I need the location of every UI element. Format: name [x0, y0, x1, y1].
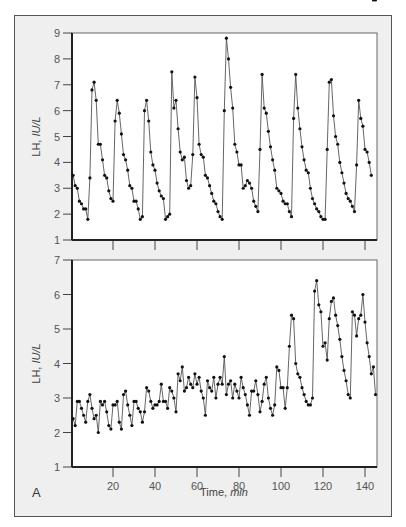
data-point: [296, 106, 299, 109]
data-point: [231, 106, 234, 109]
y-tick-label: 2: [54, 208, 60, 220]
data-point: [166, 407, 169, 410]
data-point: [116, 99, 119, 102]
data-point: [345, 379, 348, 382]
data-point: [271, 414, 274, 417]
data-point: [206, 379, 209, 382]
data-point: [120, 132, 123, 135]
data-point: [258, 410, 261, 413]
data-point: [99, 143, 102, 146]
data-point: [311, 396, 314, 399]
data-point: [221, 383, 224, 386]
data-point: [189, 383, 192, 386]
data-point: [292, 317, 295, 320]
data-point: [179, 150, 182, 153]
data-point: [101, 403, 104, 406]
data-point: [349, 200, 352, 203]
data-point: [156, 181, 159, 184]
data-point: [311, 197, 314, 200]
data-point: [118, 421, 121, 424]
data-point: [214, 396, 217, 399]
data-point: [248, 414, 251, 417]
y-tick-label: 3: [54, 182, 60, 194]
data-point: [170, 70, 173, 73]
data-point: [78, 200, 81, 203]
y-tick-label: 4: [54, 358, 60, 370]
data-point: [181, 365, 184, 368]
data-point: [107, 424, 110, 427]
data-point: [151, 163, 154, 166]
data-point: [315, 279, 318, 282]
data-point: [351, 310, 354, 313]
data-point: [353, 314, 356, 317]
data-point: [216, 383, 219, 386]
data-point: [252, 200, 255, 203]
data-point: [86, 218, 89, 221]
data-point: [128, 184, 131, 187]
y-tick-label: 1: [54, 234, 60, 246]
data-point: [137, 407, 140, 410]
data-point: [357, 99, 360, 102]
x-tick-label: 40: [149, 480, 161, 492]
data-point: [179, 379, 182, 382]
data-point: [336, 324, 339, 327]
data-point: [145, 99, 148, 102]
data-point: [300, 386, 303, 389]
data-point: [256, 210, 259, 213]
data-point: [202, 396, 205, 399]
x-tick-label: 20: [107, 480, 119, 492]
data-point: [158, 189, 161, 192]
data-point: [309, 403, 312, 406]
y-tick-label: 3: [54, 392, 60, 404]
data-point: [82, 414, 85, 417]
data-point: [109, 197, 112, 200]
data-point: [353, 210, 356, 213]
data-point: [166, 215, 169, 218]
data-point: [97, 431, 100, 434]
data-point: [332, 114, 335, 117]
data-point: [147, 119, 150, 122]
x-tick-label: 140: [356, 480, 374, 492]
data-point: [90, 88, 93, 91]
data-point: [72, 417, 75, 420]
data-point: [229, 86, 232, 89]
data-point: [355, 163, 358, 166]
data-point: [183, 156, 186, 159]
data-point: [187, 376, 190, 379]
data-point: [177, 127, 180, 130]
data-point: [149, 400, 152, 403]
data-point: [95, 414, 98, 417]
x-axis-title: Time, min: [200, 486, 248, 498]
data-point: [116, 400, 119, 403]
data-point: [219, 376, 222, 379]
data-point: [282, 386, 285, 389]
data-point: [114, 119, 117, 122]
data-point: [271, 158, 274, 161]
data-point: [206, 176, 209, 179]
data-point: [164, 400, 167, 403]
data-point: [210, 390, 213, 393]
y-tick-label: 2: [54, 427, 60, 439]
data-point: [143, 410, 146, 413]
data-point: [319, 215, 322, 218]
data-point: [246, 179, 249, 182]
data-point: [275, 187, 278, 190]
data-point: [124, 158, 127, 161]
data-point: [338, 338, 341, 341]
data-point: [204, 414, 207, 417]
data-point: [288, 345, 291, 348]
data-point: [183, 390, 186, 393]
lh-pulse-chart: 123456789LH, IU/L 1234567204060801001201…: [0, 0, 406, 527]
data-point: [172, 106, 175, 109]
data-point: [368, 355, 371, 358]
data-point: [265, 112, 268, 115]
data-point: [191, 386, 194, 389]
data-point: [174, 410, 177, 413]
data-point: [244, 184, 247, 187]
plot-area: [72, 33, 377, 240]
data-point: [78, 400, 81, 403]
data-point: [93, 417, 96, 420]
data-point: [223, 355, 226, 358]
data-point: [233, 143, 236, 146]
data-point: [284, 407, 287, 410]
